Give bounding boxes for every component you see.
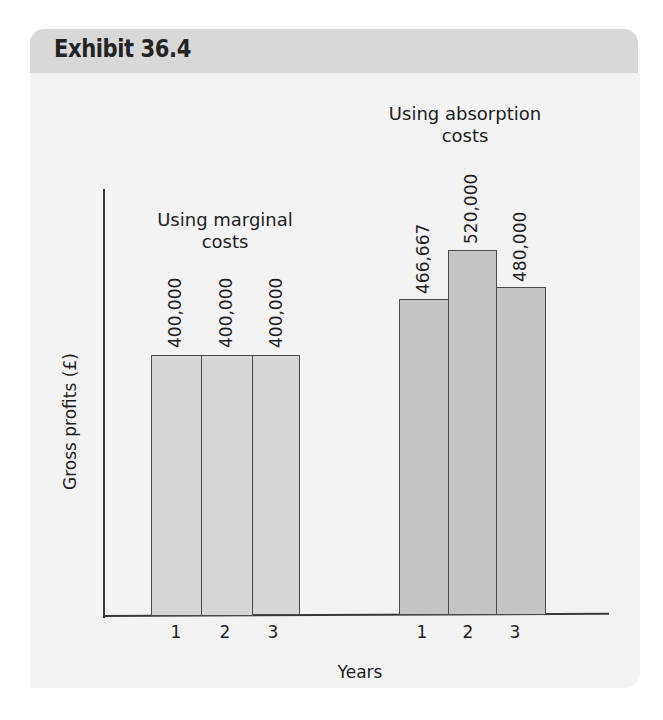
bar-absorption-year-1 [399,299,449,615]
group-title-line: Using marginal [130,209,320,231]
bar-marginal-year-3 [252,355,300,615]
bar-marginal-year-2 [201,355,253,616]
bar-absorption-year-3 [496,287,546,615]
group-title-line: Using absorption [370,103,560,125]
bar-absorption-year-2 [448,250,497,615]
chart-panel [30,73,640,688]
bar-value-label: 400,000 [216,278,236,348]
bar-value-label: 400,000 [266,278,286,348]
group-title-absorption: Using absorption costs [370,103,560,147]
group-title-line: costs [370,125,560,147]
group-title-marginal: Using marginal costs [130,209,320,253]
x-axis-label: Years [320,662,400,682]
exhibit-title: Exhibit 36.4 [54,35,191,63]
exhibit-header: Exhibit 36.4 [30,29,638,73]
x-tick-label: 3 [505,622,525,642]
x-tick-label: 1 [166,622,186,642]
x-tick-label: 2 [458,622,478,642]
bar-value-label: 480,000 [510,212,530,282]
bar-value-label: 520,000 [461,174,481,244]
x-tick-label: 1 [412,622,432,642]
y-axis [103,189,105,618]
bar-value-label: 466,667 [413,224,433,294]
x-tick-label: 3 [263,622,283,642]
group-title-line: costs [130,231,320,253]
y-axis-label: Gross profits (£) [60,353,80,490]
bar-value-label: 400,000 [165,278,185,348]
x-tick-label: 2 [215,622,235,642]
bar-marginal-year-1 [151,355,202,616]
